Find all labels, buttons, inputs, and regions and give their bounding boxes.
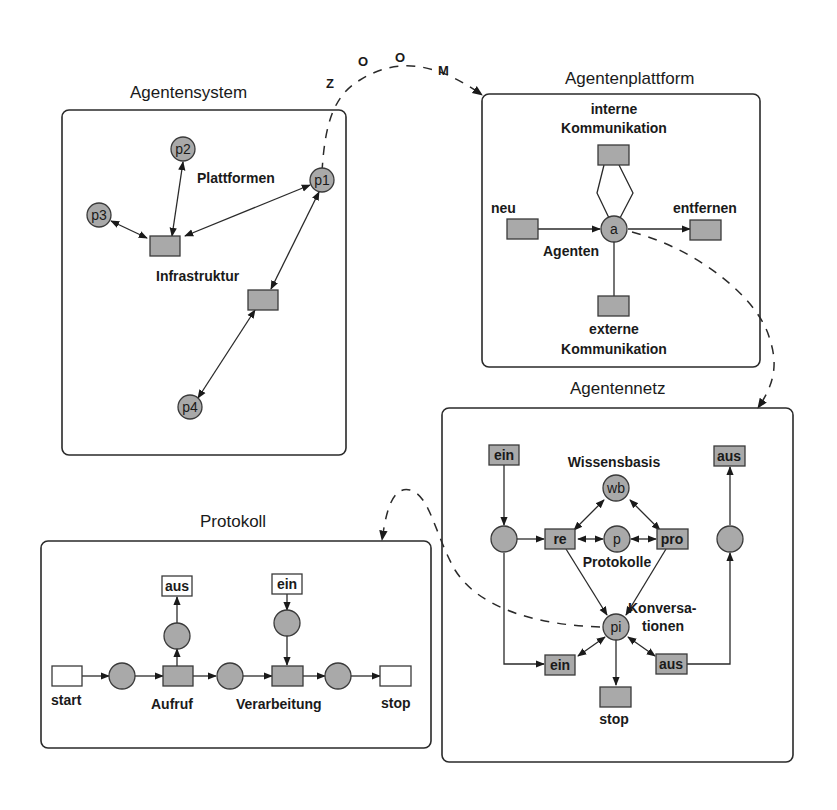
svg-text:aus: aus — [659, 656, 683, 672]
svg-text:aus: aus — [717, 448, 741, 464]
transition-verarbeitung — [272, 666, 303, 686]
svg-text:ein: ein — [277, 576, 297, 592]
agentennetz-panel: Agentennetz ein aus Wissensbasis wb — [442, 379, 793, 762]
arc-p1-infra2 — [271, 192, 319, 289]
label-verarbeitung: Verarbeitung — [236, 696, 322, 712]
place-p1: p1 — [310, 168, 334, 192]
label-agenten: Agenten — [543, 243, 599, 259]
svg-text:p: p — [613, 531, 621, 547]
transition-ein-bottom: ein — [545, 655, 575, 675]
protokoll-title: Protokoll — [200, 512, 266, 531]
place-right — [717, 526, 743, 552]
svg-text:p3: p3 — [91, 207, 107, 223]
label-protokolle: Protokolle — [583, 554, 652, 570]
transition-infrastructure-1 — [150, 236, 180, 256]
protokoll-frame — [41, 541, 431, 748]
svg-text:ein: ein — [494, 447, 514, 463]
label-stop-proto: stop — [381, 695, 411, 711]
transition-entfernen — [690, 220, 721, 240]
zoom-letter-z: Z — [326, 76, 334, 91]
agentenplattform-title: Agentenplattform — [565, 69, 694, 88]
transition-aus-bottom: aus — [656, 654, 687, 674]
label-externe-kommunikation: Kommunikation — [561, 341, 667, 357]
arc-infra2-p4 — [198, 310, 255, 398]
transition-interne-kommunikation — [598, 145, 629, 165]
agentenplattform-panel: Agentenplattform interne Kommunikation n… — [482, 69, 760, 367]
label-neu: neu — [491, 200, 516, 216]
place-proto-1 — [109, 663, 135, 689]
agentensystem-panel: Agentensystem p2 p1 p3 p4 Plattformen In… — [62, 83, 346, 455]
svg-text:re: re — [553, 531, 566, 547]
svg-text:p2: p2 — [175, 141, 191, 157]
svg-text:p4: p4 — [182, 399, 198, 415]
agentensystem-title: Agentensystem — [130, 83, 247, 102]
zoom-letter-o1: O — [358, 54, 368, 69]
zoom-letter-o2: O — [395, 50, 405, 65]
place-proto-out — [164, 623, 190, 649]
transition-start — [52, 666, 82, 686]
agentennetz-title: Agentennetz — [570, 379, 665, 398]
label-aufruf: Aufruf — [151, 696, 193, 712]
svg-text:pro: pro — [661, 531, 684, 547]
svg-text:ein: ein — [550, 657, 570, 673]
place-p2: p2 — [171, 137, 195, 161]
transition-aus-top: aus — [714, 446, 745, 466]
place-p4: p4 — [178, 395, 202, 419]
arc-internal-right — [619, 165, 633, 218]
arc-infra-p1 — [185, 185, 310, 236]
arc-internal-left — [597, 165, 609, 218]
place-p: p — [604, 526, 630, 552]
box-ein: ein — [272, 574, 302, 594]
box-aus: aus — [162, 576, 192, 596]
arc-re-wb — [574, 500, 604, 530]
svg-text:pi: pi — [611, 619, 622, 635]
place-left — [491, 526, 517, 552]
svg-text:wb: wb — [606, 480, 625, 496]
svg-text:aus: aus — [165, 578, 189, 594]
place-wb: wb — [603, 475, 629, 501]
label-wissensbasis: Wissensbasis — [568, 454, 661, 470]
transition-neu — [507, 219, 538, 239]
label-infrastruktur: Infrastruktur — [156, 268, 240, 284]
protokoll-panel: Protokoll aus ein start Aufruf V — [41, 512, 431, 748]
label-interne: interne — [591, 101, 638, 117]
arc-infra-p2 — [172, 162, 183, 236]
transition-stop-proto — [380, 666, 411, 686]
transition-stop — [600, 687, 631, 707]
place-proto-3 — [325, 663, 351, 689]
zoom-arrow-net-to-protocol — [382, 490, 600, 627]
zoom-letter-m: M — [438, 63, 449, 78]
arc-infra-p3 — [111, 221, 147, 238]
label-konversa: Konversa- — [628, 600, 697, 616]
label-externe: externe — [589, 321, 639, 337]
svg-text:p1: p1 — [314, 172, 330, 188]
transition-ein-top: ein — [489, 445, 519, 465]
place-pi: pi — [603, 614, 629, 640]
arc-ein-pi — [578, 637, 605, 656]
arc-pi-aus — [628, 637, 655, 656]
svg-text:a: a — [610, 221, 618, 237]
arc-place-to-ein-bottom — [504, 553, 544, 664]
transition-pro: pro — [657, 529, 688, 549]
place-proto-in — [274, 610, 300, 636]
place-proto-2 — [217, 663, 243, 689]
arc-wb-pro — [630, 500, 660, 530]
petri-net-diagram: Z O O M Agentensystem p2 p1 p3 p4 — [0, 0, 837, 810]
transition-infrastructure-2 — [248, 290, 278, 310]
place-p3: p3 — [87, 203, 111, 227]
transition-re: re — [545, 529, 575, 549]
place-agents: a — [601, 216, 627, 242]
transition-externe-kommunikation — [598, 296, 629, 316]
label-stop-net: stop — [599, 711, 629, 727]
label-plattformen: Plattformen — [197, 170, 275, 186]
label-interne-kommunikation: Kommunikation — [561, 120, 667, 136]
label-start: start — [51, 692, 82, 708]
label-tionen: tionen — [642, 618, 684, 634]
label-entfernen: entfernen — [673, 200, 737, 216]
transition-aufruf — [163, 666, 193, 686]
